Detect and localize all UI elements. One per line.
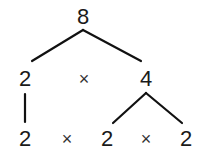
level1-right-number: 4 xyxy=(140,66,152,91)
branch-root-right xyxy=(83,30,141,61)
branch-root-left xyxy=(32,30,83,61)
factor-tree-diagram: 8 2 × 4 2 × 2 × 2 xyxy=(0,0,203,156)
branch-four-right xyxy=(146,93,182,123)
level2-multiply-sign-2: × xyxy=(141,129,152,149)
level1-multiply-sign: × xyxy=(79,69,90,89)
level1-left-number: 2 xyxy=(19,66,31,91)
root-number: 8 xyxy=(77,4,89,29)
level2-number-2: 2 xyxy=(101,126,113,151)
level2-number-1: 2 xyxy=(19,126,31,151)
level2-number-3: 2 xyxy=(180,126,192,151)
level2-multiply-sign-1: × xyxy=(62,129,73,149)
branch-four-left xyxy=(113,93,146,123)
